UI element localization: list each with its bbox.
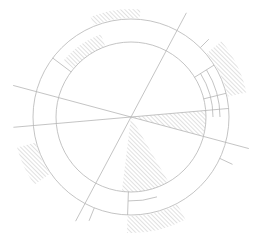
hatched-region-outer-bottom — [127, 204, 186, 233]
ring-divider-1 — [195, 65, 215, 77]
hatched-region-outer-right — [207, 41, 247, 96]
hatched-region-center-wedge-bottom — [122, 117, 169, 192]
hatched-regions — [17, 9, 246, 233]
ring-divider-3 — [128, 192, 129, 215]
radial-line-4 — [13, 117, 131, 127]
radial-line-1 — [76, 117, 131, 221]
radial-diagram — [0, 0, 261, 243]
hatched-region-center-wedge-right — [131, 110, 206, 136]
radial-line-0 — [131, 13, 186, 117]
radial-line-2 — [13, 85, 131, 117]
ring-divider-2 — [204, 93, 226, 99]
hatched-region-ring-upper-left — [64, 34, 106, 68]
radial-line-6 — [200, 39, 208, 47]
sub-arc-2 — [128, 197, 157, 201]
radial-line-8 — [89, 208, 94, 221]
hatched-region-outer-top — [91, 9, 141, 25]
radial-line-7 — [220, 158, 233, 164]
